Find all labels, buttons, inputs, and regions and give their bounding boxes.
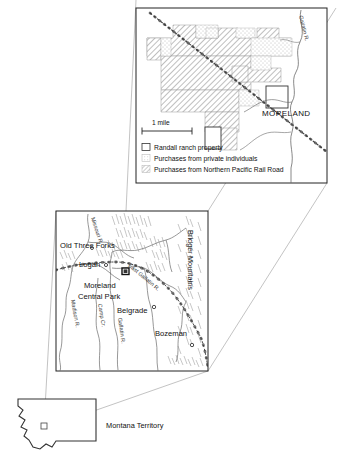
county-map-panel: Old Three Forks Logan Moreland Central P… — [56, 211, 208, 371]
county-map-frame — [56, 211, 208, 371]
moreland-place-label: MORELAND — [262, 109, 311, 118]
montana-territory-outline — [18, 399, 96, 449]
town-dot-bozeman — [190, 343, 193, 346]
map-figure: Gallatin R. MORELAND 1 mile Randall ranc… — [0, 0, 337, 460]
legend-label-private: Purchases from private individuals — [154, 155, 258, 163]
town-label-bozeman: Bozeman — [155, 329, 187, 338]
detail-inset-panel: Gallatin R. MORELAND 1 mile Randall ranc… — [136, 8, 327, 183]
figure-root: Gallatin R. MORELAND 1 mile Randall ranc… — [0, 0, 337, 460]
territory-study-area-marker — [41, 423, 47, 429]
town-dot-logan — [104, 263, 107, 266]
town-label-old-three-forks: Old Three Forks — [60, 241, 115, 250]
town-dot-belgrade — [152, 305, 155, 308]
scale-bar-label: 1 mile — [152, 119, 170, 126]
town-label-belgrade: Belgrade — [117, 306, 147, 315]
legend-swatch-ranch — [142, 144, 150, 151]
moreland-marker-core — [124, 269, 128, 273]
legend-swatch-private — [142, 155, 150, 162]
legend-label-ranch: Randall ranch property — [154, 144, 223, 152]
town-label-central-park: Central Park — [78, 292, 120, 301]
legend-label-npr: Purchases from Northern Pacific Rail Roa… — [154, 166, 284, 173]
territory-label: Montana Territory — [106, 421, 164, 430]
town-label-moreland: Moreland — [84, 281, 116, 290]
town-label-logan: Logan — [79, 260, 100, 269]
range-label-bridger-mountains: Bridger Mountains — [186, 230, 195, 290]
legend-swatch-npr — [142, 166, 150, 173]
